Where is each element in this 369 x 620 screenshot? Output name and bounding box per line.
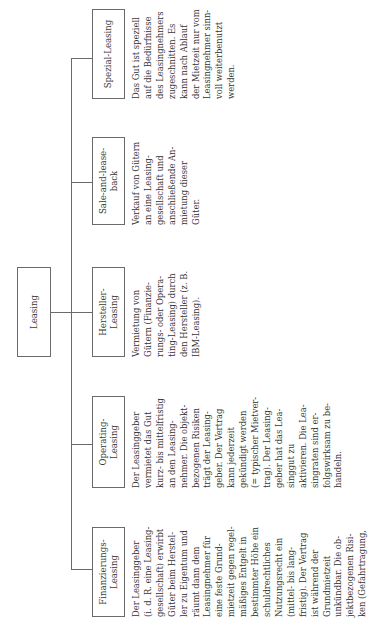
connector-finanzierungs [71,569,92,570]
node-hersteller-leasing: Hersteller- Leasing [92,267,125,357]
node-label: Finanzierungs- Leasing [98,539,120,604]
description-operating-leasing: Der Leasinggeber vermietet das Gut kurz-… [131,368,345,488]
node-operating-leasing: Operating- Leasing [92,396,125,488]
node-finanzierungs-leasing: Finanzierungs- Leasing [92,527,125,617]
description-spezial-leasing: Das Gut ist speziell auf die Bedürfnisse… [131,0,238,99]
node-spezial-leasing: Spezial-Leasing [92,9,125,99]
node-label: Operating- Leasing [98,419,120,466]
node-label: Sale-and-lease- back [98,148,120,214]
description-sale-and-lease-back: Verkauf von Gütern an eine Leasing- gese… [131,105,202,225]
node-label: Spezial-Leasing [103,20,114,89]
horizontal-spine [71,58,72,570]
root-node-leasing: Leasing [17,267,51,357]
connector-hersteller [71,312,92,313]
connector-operating [71,444,92,445]
connector-sale-lease-back [71,182,92,183]
node-label: Hersteller- Leasing [98,288,120,335]
root-node-label: Leasing [29,295,40,329]
description-finanzierungs-leasing: Der Leasinggeber (i. d. R. eine Leasing-… [131,497,369,617]
root-connector [50,312,71,313]
node-sale-and-lease-back: Sale-and-lease- back [92,137,125,225]
connector-spezial [71,58,92,59]
description-hersteller-leasing: Vermietung von Gütern (Finanzie- rungs- … [131,237,202,357]
